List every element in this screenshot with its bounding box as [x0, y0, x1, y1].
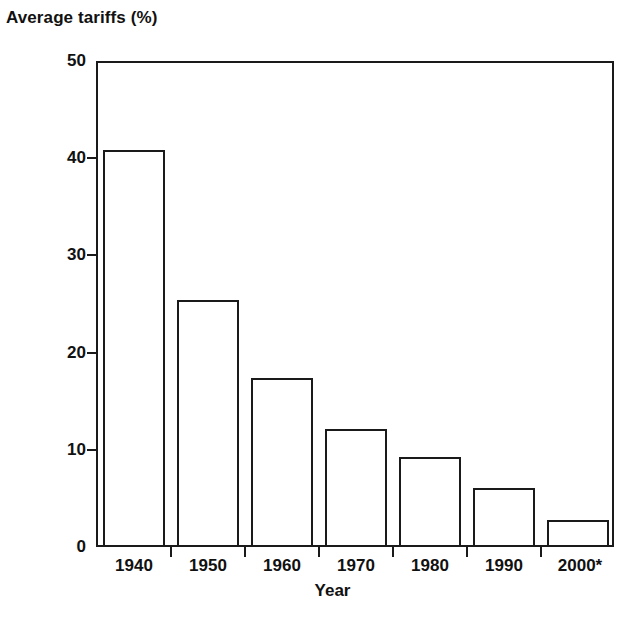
x-axis-title: Year [0, 581, 631, 601]
bar-1980 [399, 457, 461, 547]
x-tick-label-2000: 2000* [558, 556, 602, 576]
x-axis-title-text: Year [315, 581, 351, 601]
x-tick-mark-2 [244, 547, 246, 557]
bar-1940 [103, 150, 165, 547]
x-tick-label-1960: 1960 [263, 556, 301, 576]
x-tick-label-1970: 1970 [337, 556, 375, 576]
x-tick-label-1950: 1950 [189, 556, 227, 576]
bars-layer [0, 0, 631, 623]
x-tick-label-1990: 1990 [485, 556, 523, 576]
x-tick-mark-5 [466, 547, 468, 557]
bar-1990 [473, 488, 535, 547]
x-tick-mark-3 [318, 547, 320, 557]
x-tick-label-1940: 1940 [115, 556, 153, 576]
x-tick-mark-4 [392, 547, 394, 557]
x-tick-mark-1 [170, 547, 172, 557]
bar-2000 [547, 520, 609, 547]
x-tick-label-1980: 1980 [411, 556, 449, 576]
x-tick-mark-6 [540, 547, 542, 557]
bar-1970 [325, 429, 387, 548]
bar-1960 [251, 378, 313, 547]
tariffs-bar-chart: Average tariffs (%) 50 40 30 20 10 0 194… [0, 0, 631, 623]
bar-1950 [177, 300, 239, 547]
